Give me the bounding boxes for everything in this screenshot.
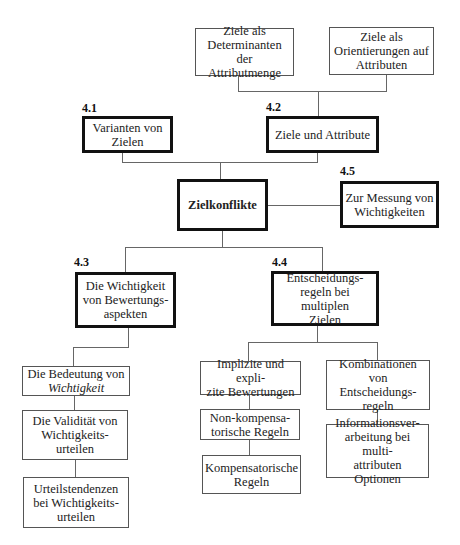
section-number-4-1: 4.1 xyxy=(82,101,97,116)
box-label: Informationsver- arbeitung bei multi- at… xyxy=(329,416,426,486)
connector xyxy=(125,247,323,248)
box-wichtigkeit-bewertungsaspekten: Die Wichtigkeit von Bewertungs- aspekten xyxy=(75,272,176,328)
box-kompensatorisch: Kompensatorische Regeln xyxy=(202,455,301,494)
box-label: Ziele und Attribute xyxy=(275,128,370,142)
box-ziele-und-attribute: Ziele und Attribute xyxy=(266,116,379,153)
box-label: Non-kompensa- torische Regeln xyxy=(210,411,291,439)
connector xyxy=(386,74,387,91)
connector xyxy=(74,395,75,410)
box-label: Implizite und expli- zite Bewertungen xyxy=(203,357,298,399)
connector xyxy=(322,247,323,272)
connector xyxy=(128,327,129,348)
box-nonkompensatorisch: Non-kompensa- torische Regeln xyxy=(200,409,300,440)
box-label: Die Wichtigkeit von Bewertungs- aspekten xyxy=(83,279,169,321)
connector xyxy=(317,325,318,342)
box-urteilstendenzen: Urteilstendenzen bei Wichtigkeits- urtei… xyxy=(23,477,129,528)
box-label: Zielkonflikte xyxy=(188,198,257,212)
connector xyxy=(75,460,76,477)
connector xyxy=(317,152,318,162)
box-kombinationen: Kombinationen von Entscheidungs- regeln xyxy=(326,360,430,410)
connector xyxy=(122,152,123,162)
box-messung-wichtigkeiten: Zur Messung von Wichtigkeiten xyxy=(340,181,439,228)
box-informationsverarbeitung: Informationsver- arbeitung bei multi- at… xyxy=(326,424,429,478)
box-label: Entscheidungs- regeln bei multiplen Ziel… xyxy=(276,271,374,327)
connector xyxy=(249,439,250,455)
section-number-4-5: 4.5 xyxy=(340,164,355,179)
box-ziele-orientierungen: Ziele als Orientierungen auf Attributen xyxy=(329,27,434,75)
box-label: Zur Messung von Wichtigkeiten xyxy=(345,191,433,219)
section-number-4-3: 4.3 xyxy=(74,255,89,270)
connector xyxy=(248,342,378,343)
box-implizite-explizite: Implizite und expli- zite Bewertungen xyxy=(200,361,301,395)
box-varianten-von-zielen: Varianten von Zielen xyxy=(82,116,173,153)
section-number-4-2: 4.2 xyxy=(266,100,281,115)
section-number-4-4: 4.4 xyxy=(272,255,287,270)
connector xyxy=(73,347,74,366)
box-label: Urteilstendenzen bei Wichtigkeits- urtei… xyxy=(33,482,119,524)
box-bedeutung-wichtigkeit: Die Bedeutung von Wichtigkeit xyxy=(22,366,130,396)
connector xyxy=(73,347,129,348)
box-label: Die Validität von Wichtigkeits- urteilen xyxy=(32,414,117,456)
box-zielkonflikte: Zielkonflikte xyxy=(177,179,268,231)
connector xyxy=(318,91,319,117)
box-label-italic: Wichtigkeit xyxy=(48,381,104,395)
box-label: Ziele als Determinanten der Attributmeng… xyxy=(198,24,291,80)
box-ziele-determinanten: Ziele als Determinanten der Attributmeng… xyxy=(195,28,294,76)
box-label: Ziele als Orientierungen auf Attributen xyxy=(334,30,429,72)
box-label: Die Bedeutung von xyxy=(27,367,124,381)
connector xyxy=(220,162,221,180)
box-label: Kompensatorische Regeln xyxy=(205,461,298,489)
connector xyxy=(238,91,387,92)
box-label: Kombinationen von Entscheidungs- regeln xyxy=(329,357,427,413)
box-label: Varianten von Zielen xyxy=(93,121,163,149)
connector xyxy=(222,230,223,247)
connector xyxy=(267,205,340,206)
box-validitaet: Die Validität von Wichtigkeits- urteilen xyxy=(22,410,128,460)
connector xyxy=(125,247,126,272)
box-entscheidungsregeln: Entscheidungs- regeln bei multiplen Ziel… xyxy=(271,271,379,326)
